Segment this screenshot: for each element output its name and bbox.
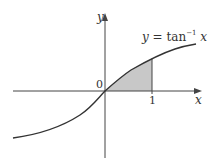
arctan-area-figure: y x 0 1 y = tan−1 x (0, 0, 214, 167)
function-label-fn: tan (166, 30, 186, 44)
y-axis-label: y (97, 11, 104, 23)
function-label: y = tan−1 x (142, 31, 207, 43)
function-label-equals: = (149, 30, 167, 44)
x-axis-label: x (195, 94, 202, 106)
shaded-area-region (105, 59, 152, 92)
function-label-exponent: −1 (186, 29, 196, 37)
plot-canvas (0, 0, 214, 167)
function-label-lhs: y (142, 30, 149, 44)
function-label-arg: x (197, 30, 208, 44)
x-tick-label-1: 1 (149, 95, 156, 106)
origin-label: 0 (96, 79, 103, 90)
